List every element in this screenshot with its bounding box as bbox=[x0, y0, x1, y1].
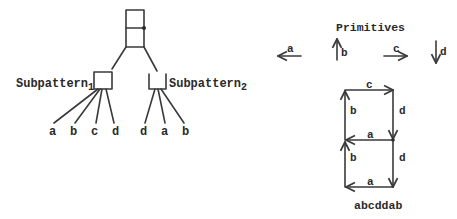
pattern-diagram: Subpattern1 a b c d Subpattern2 d a b Pr… bbox=[0, 0, 457, 219]
leaf-label: d bbox=[140, 125, 147, 139]
svg-text:a: a bbox=[367, 129, 374, 141]
svg-text:c: c bbox=[393, 43, 400, 55]
leaf-label: a bbox=[161, 125, 168, 139]
primitives-title: Primitives bbox=[336, 21, 405, 34]
subpattern-2-edges bbox=[145, 89, 184, 123]
pattern-figure: c b d a b d a bbox=[345, 79, 406, 188]
root-node bbox=[126, 10, 146, 47]
primitive-b: b bbox=[337, 39, 348, 60]
svg-text:a: a bbox=[367, 176, 374, 188]
root-dot-icon bbox=[142, 26, 146, 30]
svg-text:b: b bbox=[350, 152, 357, 164]
svg-text:d: d bbox=[399, 152, 406, 164]
subpattern-1-edges bbox=[54, 89, 114, 123]
svg-text:a: a bbox=[287, 43, 294, 55]
subpattern-1-label: Subpattern1 bbox=[16, 77, 94, 93]
leaf-label: c bbox=[91, 125, 98, 139]
subpattern-2-node bbox=[149, 74, 166, 89]
leaf-label: d bbox=[112, 125, 119, 139]
svg-text:d: d bbox=[399, 105, 406, 117]
edge-root-sub1 bbox=[112, 47, 126, 69]
subpattern-2-label: Subpattern2 bbox=[169, 77, 247, 93]
edge-root-sub2 bbox=[144, 47, 157, 71]
leaf-label: b bbox=[70, 125, 77, 139]
leaf-label: b bbox=[182, 125, 189, 139]
figure-caption: abcddab bbox=[354, 199, 402, 212]
subpattern-1-node bbox=[94, 72, 112, 89]
svg-text:b: b bbox=[341, 47, 348, 59]
svg-text:b: b bbox=[350, 105, 357, 117]
primitive-d: d bbox=[436, 41, 447, 63]
leaf-label: a bbox=[49, 125, 56, 139]
svg-text:c: c bbox=[366, 79, 373, 91]
svg-text:d: d bbox=[440, 46, 447, 58]
primitive-a: a bbox=[278, 43, 301, 56]
primitive-c: c bbox=[384, 43, 407, 56]
